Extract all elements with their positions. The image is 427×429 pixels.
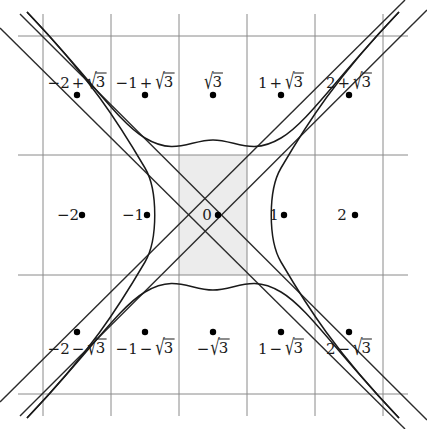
point-dot xyxy=(278,92,284,98)
point-dot xyxy=(346,329,352,335)
point-dot xyxy=(352,212,358,218)
point-dot xyxy=(278,329,284,335)
asymptote-up-right-inner xyxy=(0,0,405,402)
hyperbola-figure: −2+√3 −1+√3 √3 1+√3 2+√3 −2 −1 0 1 2 −2−… xyxy=(0,0,427,429)
hyperbola-branch-top xyxy=(27,12,399,147)
point-dot xyxy=(79,212,85,218)
lattice-points xyxy=(74,92,358,335)
point-dot xyxy=(210,329,216,335)
point-dot xyxy=(210,92,216,98)
plot-canvas xyxy=(0,0,427,429)
point-dot xyxy=(142,92,148,98)
point-dot xyxy=(142,329,148,335)
point-dot xyxy=(346,92,352,98)
point-dot xyxy=(281,212,287,218)
asymptote-down-right-inner xyxy=(0,28,405,429)
point-dot xyxy=(74,329,80,335)
hyperbola-branch-right xyxy=(271,12,399,418)
point-dot xyxy=(144,212,150,218)
point-dot xyxy=(74,92,80,98)
point-dot xyxy=(215,212,221,218)
hyperbola-branch-bottom xyxy=(27,283,399,418)
